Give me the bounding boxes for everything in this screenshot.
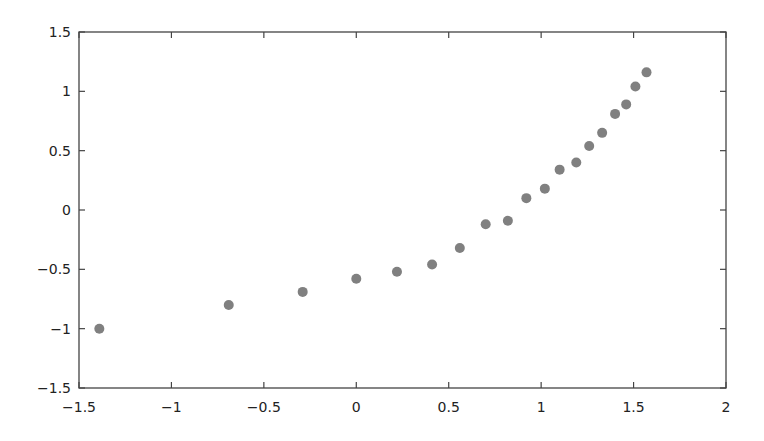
x-tick-label: 1.5 [622,399,644,415]
y-tick-label: 0.5 [49,143,71,159]
x-tick-label: 2 [722,399,731,415]
data-point [503,216,513,226]
axes: −1.5−1−0.500.511.52−1.5−1−0.500.511.5 [37,24,730,415]
data-point [584,141,594,151]
x-tick-label: 0 [352,399,361,415]
x-tick-label: 0.5 [438,399,460,415]
data-points [94,67,651,333]
data-point [94,324,104,334]
data-point [610,109,620,119]
y-tick-label: −0.5 [37,261,71,277]
data-point [392,267,402,277]
data-point [427,260,437,270]
data-point [630,82,640,92]
data-point [351,274,361,284]
y-tick-label: −1.5 [37,380,71,396]
x-tick-label: −1.5 [62,399,96,415]
y-tick-label: −1 [50,321,71,337]
y-tick-label: 1.5 [49,24,71,40]
x-tick-label: 1 [537,399,546,415]
data-point [224,300,234,310]
x-tick-label: −0.5 [247,399,281,415]
data-point [298,287,308,297]
y-tick-label: 1 [62,83,71,99]
data-point [455,243,465,253]
data-point [555,165,565,175]
data-point [642,67,652,77]
data-point [521,193,531,203]
y-tick-label: 0 [62,202,71,218]
plot-frame [79,32,726,388]
scatter-chart: −1.5−1−0.500.511.52−1.5−1−0.500.511.5 [0,0,764,441]
data-point [597,128,607,138]
data-point [621,99,631,109]
data-point [540,184,550,194]
data-point [571,158,581,168]
data-point [481,219,491,229]
x-tick-label: −1 [161,399,182,415]
